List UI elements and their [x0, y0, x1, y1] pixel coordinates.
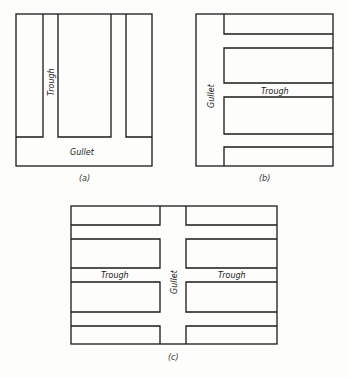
panel-b-block-3: [224, 97, 333, 134]
panel-b-caption: (b): [259, 174, 270, 183]
panel-b-block-1: [224, 14, 333, 34]
panel-a-block-left: [16, 14, 43, 137]
panel-c-left-block-2: [71, 239, 160, 268]
panel-a-caption: (a): [79, 174, 90, 183]
trough-gullet-figure: Trough Gullet (a) Gullet Trough (b) Trou…: [0, 0, 348, 378]
panel-c-left-block-3: [71, 282, 160, 312]
panel-a-outline: [16, 14, 152, 166]
panel-c-caption: (c): [168, 353, 179, 362]
panel-c-trough-left-label: Trough: [101, 271, 129, 280]
panel-a-trough-label: Trough: [47, 68, 56, 96]
panel-c-right-block-3: [186, 282, 277, 312]
panel-c-gullet-label: Gullet: [170, 269, 179, 294]
panel-a-block-middle: [58, 14, 111, 137]
panel-b: Gullet Trough (b): [196, 14, 333, 183]
panel-c-trough-right-label: Trough: [218, 271, 246, 280]
panel-a-block-right: [126, 14, 152, 137]
panel-c-right-block-2: [186, 239, 277, 268]
panel-b-gullet-label: Gullet: [207, 83, 216, 108]
panel-b-block-2: [224, 48, 333, 83]
panel-c-left-block-1: [71, 206, 160, 225]
panel-c-left-block-4: [71, 326, 160, 344]
panel-b-trough-label: Trough: [261, 87, 289, 96]
panel-a: Trough Gullet (a): [16, 14, 152, 183]
panel-c: Trough Trough Gullet (c): [71, 206, 277, 362]
panel-c-right-block-1: [186, 206, 277, 225]
panel-b-block-4: [224, 147, 333, 166]
panel-c-right-block-4: [186, 326, 277, 344]
panel-a-gullet-label: Gullet: [70, 148, 95, 157]
